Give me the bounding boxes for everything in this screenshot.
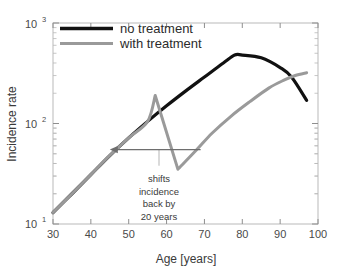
x-tick-label-90: 90: [274, 228, 286, 240]
x-tick-label-70: 70: [198, 228, 210, 240]
y-tick-exponent-mid: 2: [42, 115, 46, 124]
x-tick-label-100: 100: [309, 228, 327, 240]
annotation-line-2: incidence: [139, 186, 179, 197]
x-tick-label-40: 40: [85, 228, 97, 240]
incidence-rate-chart: shifts incidence back by 20 years 304050…: [0, 0, 342, 274]
y-tick-exponent-high: 3: [42, 15, 46, 24]
y-tick-exponent-low: 1: [42, 215, 46, 224]
chart-legend: no treatment with treatment: [60, 21, 202, 51]
annotation-line-1: shifts: [148, 173, 170, 184]
legend-label-no-treatment: no treatment: [120, 21, 193, 36]
annotation-line-4: 20 years: [141, 211, 178, 222]
y-tick-label-10e3: 10 3: [25, 15, 46, 30]
annotation-line-3: back by: [143, 198, 176, 209]
y-axis-title: Incidence rate: [5, 86, 19, 162]
figure-container: shifts incidence back by 20 years 304050…: [0, 0, 342, 274]
y-axis-minor-ticks: [53, 28, 318, 194]
x-tick-label-50: 50: [123, 228, 135, 240]
x-tick-label-30: 30: [47, 228, 59, 240]
y-tick-label-10e2: 10 2: [25, 115, 46, 130]
y-axis-major-ticks: [53, 23, 318, 224]
x-axis-tick-labels: 30405060708090100: [47, 228, 327, 240]
x-axis-title: Age [years]: [156, 252, 217, 266]
x-tick-label-60: 60: [160, 228, 172, 240]
x-tick-label-80: 80: [236, 228, 248, 240]
y-tick-base-low: 10: [25, 218, 37, 230]
y-axis-tick-labels: 10 3 10 2 10 1: [25, 15, 46, 230]
y-tick-base-mid: 10: [25, 118, 37, 130]
series-line-no-treatment: [53, 54, 307, 212]
annotation-caption: shifts incidence back by 20 years: [139, 173, 179, 222]
y-tick-label-10e1: 10 1: [25, 215, 46, 230]
plot-frame: [53, 23, 318, 224]
x-axis-major-ticks: [53, 23, 318, 224]
y-tick-base-high: 10: [25, 18, 37, 30]
legend-label-with-treatment: with treatment: [119, 36, 202, 51]
